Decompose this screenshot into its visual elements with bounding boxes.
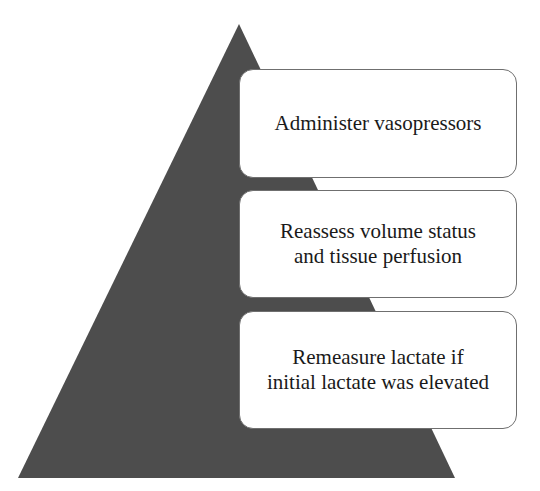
level-label: Administer vasopressors [274, 111, 481, 136]
level-label: Reassess volume status and tissue perfus… [280, 219, 476, 269]
pyramid-diagram: Administer vasopressors Reassess volume … [0, 0, 540, 491]
level-box-vasopressors: Administer vasopressors [239, 69, 517, 178]
level-label: Remeasure lactate if initial lactate was… [267, 345, 489, 395]
level-box-remeasure-lactate: Remeasure lactate if initial lactate was… [239, 311, 517, 429]
level-box-reassess-volume: Reassess volume status and tissue perfus… [239, 190, 517, 298]
